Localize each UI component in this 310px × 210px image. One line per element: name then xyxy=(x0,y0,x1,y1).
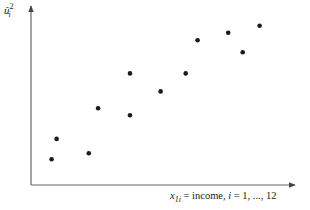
data-point xyxy=(226,30,231,35)
data-points xyxy=(49,23,262,161)
scatter-chart xyxy=(0,0,310,210)
data-point xyxy=(183,71,188,76)
data-point xyxy=(257,23,262,28)
data-point xyxy=(128,71,133,76)
data-point xyxy=(158,89,163,94)
data-point xyxy=(195,38,200,43)
data-point xyxy=(240,50,245,55)
data-point xyxy=(49,157,54,162)
x-axis-label: x1i = income, i = 1, ..., 12 xyxy=(170,190,276,204)
y-axis-label: û2i xyxy=(4,2,11,19)
data-point xyxy=(96,106,101,111)
data-point xyxy=(54,137,59,142)
data-point xyxy=(128,113,133,118)
data-point xyxy=(87,151,92,156)
